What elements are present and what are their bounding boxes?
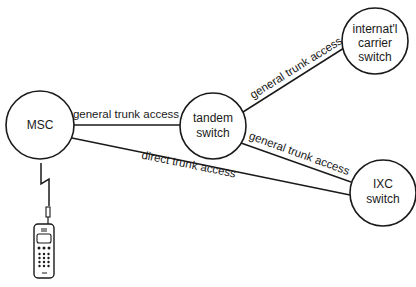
node-ixc-switch: IXC switch (350, 160, 416, 226)
node-label-msc: MSC (27, 118, 54, 132)
edge-label-tandem-intl: general trunk access (248, 34, 345, 101)
node-label-intl-line2: carrier (358, 36, 392, 50)
node-label-ixc-line1: IXC (373, 177, 393, 191)
node-label-tandem-line2: switch (196, 126, 229, 140)
node-label-ixc-line2: switch (366, 192, 399, 206)
node-label-intl-line1: internat'l (353, 22, 398, 36)
wireless-link-icon (41, 163, 49, 206)
mobile-phone-icon (34, 207, 54, 278)
node-intl-carrier-switch: internat'l carrier switch (342, 8, 408, 74)
edge-tandem-intl (243, 48, 344, 112)
node-label-intl-line3: switch (358, 50, 391, 64)
node-tandem-switch: tandem switch (180, 93, 246, 159)
edge-label-tandem-ixc: general trunk access (247, 129, 351, 177)
edge-label-msc-tandem: general trunk access (73, 108, 179, 120)
node-msc: MSC (6, 91, 74, 159)
node-label-tandem-line1: tandem (193, 111, 233, 125)
network-diagram: general trunk access general trunk acces… (0, 0, 416, 287)
